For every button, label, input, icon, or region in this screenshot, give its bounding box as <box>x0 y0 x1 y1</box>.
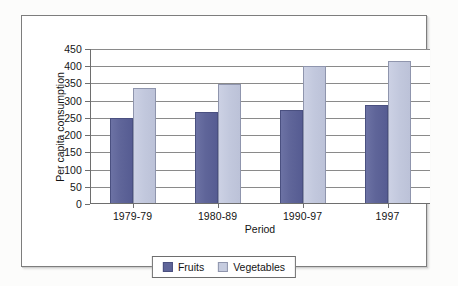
bar-vegetables-2[interactable] <box>303 66 326 204</box>
x-tick-label-3: 1997 <box>376 210 400 222</box>
y-axis-line <box>90 49 91 204</box>
x-tick-1 <box>218 204 219 208</box>
y-axis-title: Per capita consumption <box>53 49 67 204</box>
bar-group-2: 1990-97 <box>280 49 326 204</box>
bar-vegetables-3[interactable] <box>388 61 411 204</box>
x-axis-title: Period <box>90 223 430 235</box>
legend-label-vegetables: Vegetables <box>233 261 285 273</box>
y-tick-label-200: 200 <box>64 129 82 141</box>
x-tick-2 <box>303 204 304 208</box>
x-tick-3 <box>388 204 389 208</box>
x-tick-0 <box>133 204 134 208</box>
page-background: Per capita consumption 450 <box>0 0 458 286</box>
bar-fruits-3[interactable] <box>365 105 388 204</box>
legend-swatch-fruits-icon <box>163 262 173 272</box>
y-tick-label-50: 50 <box>70 181 82 193</box>
y-tick-label-150: 150 <box>64 146 82 158</box>
bar-vegetables-0[interactable] <box>133 88 156 204</box>
bar-group-3: 1997 <box>365 49 411 204</box>
x-tick-label-2: 1990-97 <box>283 210 322 222</box>
legend-label-fruits: Fruits <box>178 261 204 273</box>
y-tick-0 <box>85 204 90 205</box>
y-tick-label-100: 100 <box>64 164 82 176</box>
y-tick-label-450: 450 <box>64 43 82 55</box>
x-tick-label-1: 1980-89 <box>198 210 237 222</box>
bar-fruits-1[interactable] <box>195 112 218 204</box>
figure-frame: Per capita consumption 450 <box>21 15 427 267</box>
bar-group-1: 1980-89 <box>195 49 241 204</box>
bar-group-0: 1979-79 <box>110 49 156 204</box>
legend-item-vegetables[interactable]: Vegetables <box>218 261 285 273</box>
plot-area: 450 400 350 300 250 200 150 100 50 0 197… <box>90 49 430 204</box>
y-tick-label-300: 300 <box>64 95 82 107</box>
bar-fruits-2[interactable] <box>280 110 303 204</box>
y-tick-label-400: 400 <box>64 60 82 72</box>
bar-groups: 1979-79 1980-89 1990-97 <box>90 49 430 204</box>
bar-fruits-0[interactable] <box>110 118 133 204</box>
y-tick-label-0: 0 <box>76 198 82 210</box>
chart-legend: Fruits Vegetables <box>152 256 296 278</box>
x-axis-line <box>90 203 430 204</box>
x-tick-label-0: 1979-79 <box>113 210 152 222</box>
bar-vegetables-1[interactable] <box>218 84 241 204</box>
legend-item-fruits[interactable]: Fruits <box>163 261 204 273</box>
y-tick-label-250: 250 <box>64 112 82 124</box>
y-tick-label-350: 350 <box>64 77 82 89</box>
legend-swatch-vegetables-icon <box>218 262 228 272</box>
